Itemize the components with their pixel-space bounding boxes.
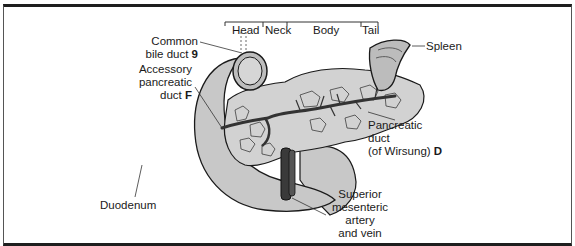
region-tail-label: Tail xyxy=(362,24,379,37)
superior-mesenteric-label: Superior mesenteric artery and vein xyxy=(325,188,395,240)
duodenum-label: Duodenum xyxy=(100,199,156,212)
common-bile-duct-label: Common bile duct 9 xyxy=(118,35,198,61)
region-head-label: Head xyxy=(232,24,260,37)
region-body-label: Body xyxy=(313,24,339,37)
region-neck-label: Neck xyxy=(265,24,291,37)
pancreatic-duct-label: Pancreatic duct (of Wirsung) D xyxy=(368,119,442,158)
accessory-pancreatic-duct-label: Accessory pancreatic duct F xyxy=(108,63,192,102)
spleen-label: Spleen xyxy=(426,40,462,53)
